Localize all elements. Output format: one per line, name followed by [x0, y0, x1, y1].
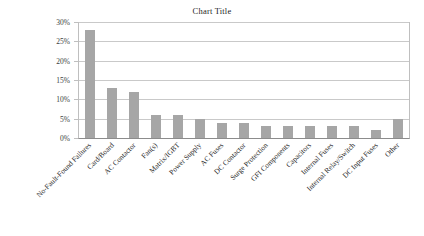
- bar: [349, 126, 358, 138]
- bar: [371, 130, 380, 138]
- bar: [107, 88, 116, 138]
- bar-slot: [321, 22, 343, 138]
- bar-slot: [299, 22, 321, 138]
- bar-slot: [277, 22, 299, 138]
- bar-slot: [167, 22, 189, 138]
- x-tick-label: Other: [384, 140, 403, 159]
- y-tick-label: 15%: [56, 76, 70, 85]
- y-tick-label: 20%: [56, 56, 70, 65]
- plot-area: [78, 22, 410, 139]
- bar-slot: [233, 22, 255, 138]
- x-axis: No-Fault-Found FailuresCard/BoardAC Cont…: [78, 140, 408, 232]
- bar: [151, 115, 160, 138]
- bar-slot: [343, 22, 365, 138]
- bar-slot: [387, 22, 409, 138]
- bar-slot: [255, 22, 277, 138]
- bar-slot: [211, 22, 233, 138]
- y-tick-label: 10%: [56, 95, 70, 104]
- bar: [217, 123, 226, 138]
- bar: [173, 115, 182, 138]
- bar-slot: [101, 22, 123, 138]
- bar-slot: [79, 22, 101, 138]
- bar-slot: [189, 22, 211, 138]
- bar-chart: Chart Title 0%5%10%15%20%25%30% No-Fault…: [0, 0, 424, 236]
- bar: [85, 30, 94, 138]
- y-tick-label: 5%: [60, 114, 70, 123]
- bar: [393, 119, 402, 138]
- bar: [129, 92, 138, 138]
- bar-slot: [145, 22, 167, 138]
- x-tick-label: No-Fault-Found Failures: [35, 140, 94, 199]
- bar: [327, 126, 336, 138]
- bar-slot: [123, 22, 145, 138]
- y-tick-label: 0%: [60, 134, 70, 143]
- bar: [195, 119, 204, 138]
- bar: [283, 126, 292, 138]
- y-axis: 0%5%10%15%20%25%30%: [40, 22, 74, 138]
- bar-slot: [365, 22, 387, 138]
- bars-layer: [79, 22, 409, 138]
- bar: [239, 123, 248, 138]
- bar: [261, 126, 270, 138]
- bar: [305, 126, 314, 138]
- y-tick-label: 30%: [56, 18, 70, 27]
- chart-title: Chart Title: [0, 6, 424, 16]
- y-tick-label: 25%: [56, 37, 70, 46]
